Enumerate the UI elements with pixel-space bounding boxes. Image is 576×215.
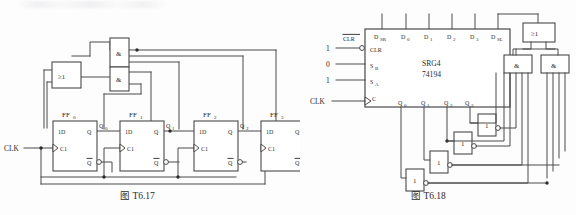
- and-gate-2: &: [541, 55, 569, 73]
- or-gate-1-symbol: ≥1: [531, 30, 539, 38]
- sa-input-value: 1: [326, 76, 330, 85]
- ff1-q-label: Q: [154, 129, 159, 135]
- svg-text:2: 2: [246, 126, 249, 131]
- svg-text:Q: Q: [421, 100, 426, 106]
- figure-t618-caption: 图 T6.18: [411, 191, 446, 201]
- figure-t618-diagram: SRG4 74194 D SR D 0 D 1 D 2: [310, 6, 576, 206]
- ff3-qn-label: Q: [295, 160, 300, 166]
- svg-text:SL: SL: [497, 37, 503, 42]
- ff3-name-index: 3: [281, 115, 284, 120]
- ff0-qn-label: Q: [87, 160, 92, 166]
- clk-input-label: CLK: [4, 144, 19, 153]
- or-gate-1: ≥1: [523, 23, 555, 42]
- chip-clr-bubble: [360, 46, 365, 51]
- ff2-d-label: 1D: [199, 129, 207, 135]
- ff2-output-label: Q 2: [240, 123, 249, 131]
- flipflop-ff3: FF 3 1D Q C1 Q: [261, 111, 300, 171]
- and-gate-1: &: [504, 55, 532, 73]
- ff3-qn-label-group: Q: [295, 158, 301, 166]
- inverter-3: 1: [430, 151, 452, 173]
- svg-text:D: D: [470, 34, 475, 40]
- svg-text:D: D: [424, 34, 429, 40]
- ff1-name-label: FF: [129, 111, 137, 119]
- ff3-q-label: Q: [295, 129, 300, 135]
- ff0-c-label: C1: [60, 146, 67, 152]
- ff0-q-label: Q: [87, 129, 92, 135]
- inverter-4-symbol: 1: [413, 177, 417, 185]
- figure-t617-caption: 图 T6.17: [120, 191, 155, 201]
- chip-pin-clr-label: CLR: [370, 47, 382, 53]
- chip-pin-c-label: C: [372, 96, 376, 102]
- ff2-qn-label: Q: [228, 160, 233, 166]
- figure-sheet: ≥1 & & CLK FF 0 1D Q C1 Q: [0, 0, 576, 215]
- and-gate-1-symbol: &: [116, 50, 122, 58]
- svg-text:S: S: [370, 63, 373, 69]
- svg-text:S: S: [370, 79, 373, 85]
- ff0-d-label: 1D: [58, 129, 66, 135]
- svg-text:D: D: [491, 34, 496, 40]
- svg-text:CLR: CLR: [343, 36, 355, 42]
- flipflop-ff2: FF 2 1D Q C1 Q Q 2: [194, 111, 249, 171]
- chip-part-number: 74194: [422, 70, 441, 79]
- shift-register-chip: SRG4 74194 D SR D 0 D 1 D 2: [360, 29, 510, 108]
- svg-text:Q: Q: [444, 100, 449, 106]
- svg-text:A: A: [375, 82, 379, 87]
- inverter-1: 1: [478, 114, 500, 136]
- svg-text:Q: Q: [465, 100, 470, 106]
- svg-text:SR: SR: [380, 37, 387, 42]
- svg-text:0: 0: [105, 126, 108, 131]
- inverter-3-symbol: 1: [437, 159, 441, 167]
- svg-text:D: D: [401, 34, 406, 40]
- inverter-2: 1: [454, 132, 476, 154]
- ff2-name-label: FF: [203, 111, 211, 119]
- svg-text:Q: Q: [99, 123, 104, 129]
- svg-text:D: D: [374, 34, 379, 40]
- figure-t617-diagram: ≥1 & & CLK FF 0 1D Q C1 Q: [0, 6, 300, 206]
- ff3-name-label: FF: [270, 111, 278, 119]
- clr-input-value: 1: [326, 44, 330, 53]
- and-gate-2: &: [110, 67, 129, 91]
- svg-text:Q: Q: [240, 123, 245, 129]
- ff2-c-label: C1: [201, 146, 208, 152]
- clk-input-value: CLK: [310, 97, 325, 106]
- flipflop-ff1: FF 1 1D Q C1 Q Q 1: [120, 111, 175, 171]
- ff0-name-label: FF: [62, 111, 70, 119]
- or-gate-1-symbol: ≥1: [58, 73, 66, 81]
- svg-text:1: 1: [172, 126, 175, 131]
- inverter-4: 1: [406, 169, 428, 191]
- svg-text:Q: Q: [166, 123, 171, 129]
- flipflop-ff0: FF 0 1D Q C1 Q Q 0: [53, 111, 108, 171]
- ff3-c-label: C1: [268, 146, 275, 152]
- ff1-qn-label: Q: [154, 160, 159, 166]
- or-gate-1: ≥1: [52, 62, 81, 88]
- chip-function-label: SRG4: [422, 59, 441, 68]
- ff1-name-index: 1: [140, 115, 143, 120]
- t618-left-inputs: 1 0 1 CLK CLR: [310, 34, 365, 106]
- svg-text:Q: Q: [398, 100, 403, 106]
- t618-gate-interconnect: [513, 42, 558, 55]
- and-gate-1: &: [110, 38, 129, 67]
- svg-text:D: D: [447, 34, 452, 40]
- ff2-name-index: 2: [214, 115, 217, 120]
- t618-top-pin-stubs: [382, 14, 538, 29]
- ff0-name-index: 0: [73, 115, 76, 120]
- ff3-d-label: 1D: [266, 129, 274, 135]
- ff1-c-label: C1: [127, 146, 134, 152]
- ff2-q-label: Q: [228, 129, 233, 135]
- clr-bar-label: CLR: [343, 34, 361, 42]
- ff1-d-label: 1D: [125, 129, 133, 135]
- sb-input-value: 0: [326, 60, 330, 69]
- and-gate-1-symbol: &: [514, 62, 520, 70]
- and-gate-2-symbol: &: [116, 76, 122, 84]
- and-gate-2-symbol: &: [551, 62, 557, 70]
